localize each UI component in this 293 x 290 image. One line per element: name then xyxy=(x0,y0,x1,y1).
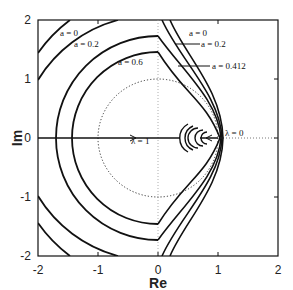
y-axis-label: Im xyxy=(9,130,25,146)
label-left-a0: a = 0 xyxy=(60,28,79,38)
label-lambda1: λ = 1 xyxy=(131,136,149,146)
ytick: 1 xyxy=(24,72,31,86)
label-lambda0: λ = 0 xyxy=(225,128,244,138)
ytick: -1 xyxy=(20,190,31,204)
label-right-a02: a = 0.2 xyxy=(201,39,226,49)
label-right-a0: a = 0 xyxy=(189,28,208,38)
ytick: 0 xyxy=(24,131,31,145)
xtick: 1 xyxy=(215,263,222,277)
xtick: -2 xyxy=(33,263,44,277)
ytick: 2 xyxy=(24,13,31,27)
root-locus-plot: a = 0 a = 0.2 a = 0.6 a = 0 a = 0.2 a = … xyxy=(0,0,293,290)
xtick: 2 xyxy=(275,263,282,277)
label-left-a06: a = 0.6 xyxy=(118,57,143,67)
xtick: -1 xyxy=(93,263,104,277)
label-right-a0412: a = 0.412 xyxy=(212,61,246,71)
ytick: -2 xyxy=(20,249,31,263)
label-left-a02: a = 0.2 xyxy=(74,39,99,49)
x-axis-label: Re xyxy=(149,275,167,290)
